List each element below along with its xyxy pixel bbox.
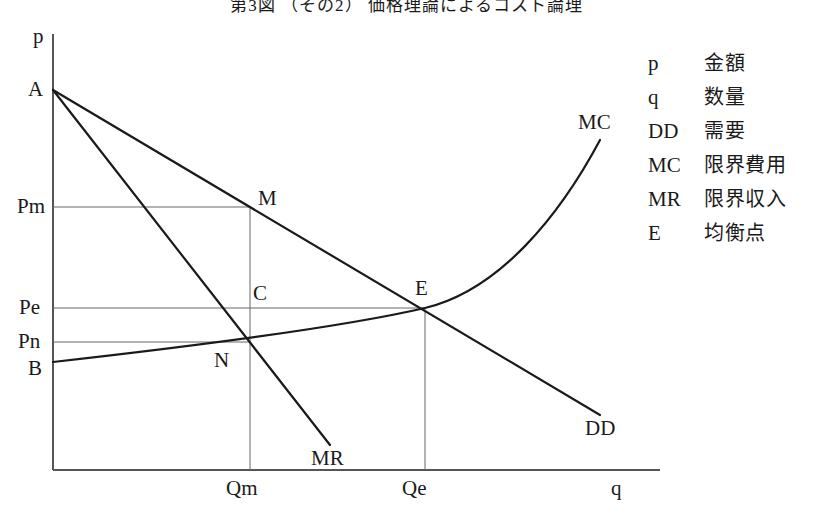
point-label-n: N — [214, 350, 229, 371]
marginal-revenue-curve-mr — [53, 90, 330, 445]
y-tick-label-pe: Pe — [19, 297, 40, 318]
legend-item-mr: MR 限界収入 — [648, 183, 813, 217]
figure-container: 第3図 （その2） 価格理論によるコスト論理 p q A Pm Pe Pn B … — [0, 0, 813, 512]
x-axis-label: q — [611, 478, 622, 499]
legend-symbol-dd: DD — [648, 119, 704, 144]
legend-symbol-e: E — [648, 221, 704, 246]
y-tick-label-pm: Pm — [17, 196, 45, 217]
legend-item-mc: MC 限界費用 — [648, 149, 813, 183]
legend-description-dd: 需要 — [704, 115, 745, 144]
legend-description-e: 均衡点 — [704, 217, 766, 246]
point-label-e: E — [415, 278, 428, 299]
curve-label-mc: MC — [578, 112, 611, 133]
y-tick-label-pn: Pn — [18, 331, 40, 352]
point-label-c: C — [253, 283, 267, 304]
legend-symbol-q: q — [648, 85, 704, 110]
x-tick-label-qm: Qm — [226, 478, 258, 499]
legend: p 金額 q 数量 DD 需要 MC 限界費用 MR 限界収入 E 均衡点 — [648, 47, 813, 251]
y-tick-label-a: A — [28, 79, 43, 100]
marginal-cost-curve-mc — [53, 140, 600, 362]
legend-description-mc: 限界費用 — [704, 149, 786, 178]
y-axis-label: p — [33, 26, 44, 47]
legend-symbol-p: p — [648, 51, 704, 76]
x-tick-label-qe: Qe — [402, 478, 427, 499]
legend-description-q: 数量 — [704, 81, 745, 110]
legend-symbol-mc: MC — [648, 153, 704, 178]
y-tick-label-b: B — [28, 358, 42, 379]
curve-label-mr: MR — [311, 448, 344, 469]
legend-symbol-mr: MR — [648, 187, 704, 212]
legend-item-q: q 数量 — [648, 81, 813, 115]
point-label-m: M — [258, 188, 277, 209]
legend-description-mr: 限界収入 — [704, 183, 786, 212]
legend-item-p: p 金額 — [648, 47, 813, 81]
curve-label-dd: DD — [585, 418, 615, 439]
legend-item-e: E 均衡点 — [648, 217, 813, 251]
legend-description-p: 金額 — [704, 47, 745, 76]
legend-item-dd: DD 需要 — [648, 115, 813, 149]
